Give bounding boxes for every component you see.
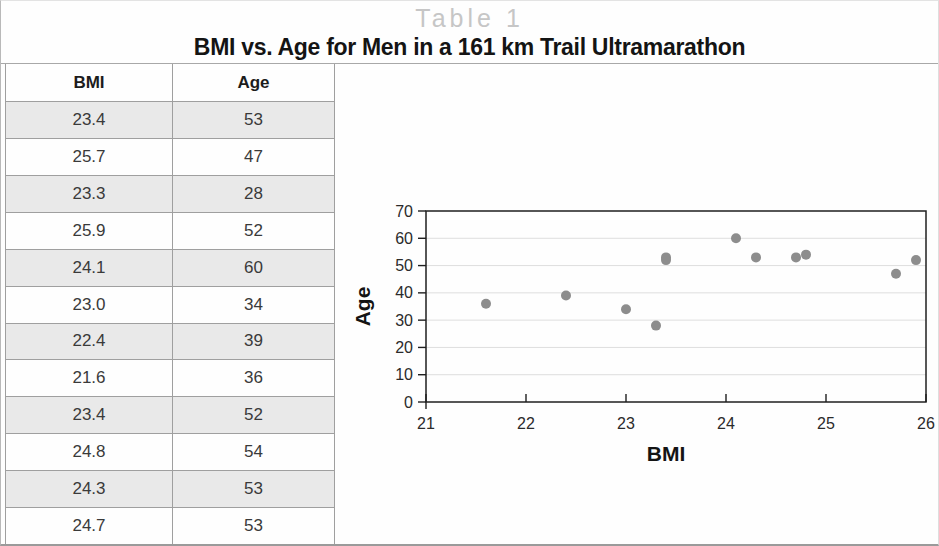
data-point bbox=[801, 250, 811, 260]
y-tick-label: 40 bbox=[395, 284, 413, 301]
data-table: BMI Age 23.45325.74723.32825.95224.16023… bbox=[5, 64, 335, 544]
table-cell: 23.3 bbox=[6, 176, 172, 212]
table-cell: 24.8 bbox=[6, 434, 172, 470]
data-point bbox=[651, 321, 661, 331]
x-tick-label: 25 bbox=[817, 415, 835, 432]
table-number: Table 1 bbox=[1, 5, 938, 33]
table-row: 24.854 bbox=[6, 433, 334, 470]
table-row: 23.034 bbox=[6, 286, 334, 323]
table-cell: 21.6 bbox=[6, 360, 172, 396]
table-row: 23.452 bbox=[6, 396, 334, 433]
x-axis-title: BMI bbox=[647, 442, 686, 465]
table-row: 25.952 bbox=[6, 212, 334, 249]
table-cell: 24.1 bbox=[6, 250, 172, 286]
plot-frame bbox=[426, 211, 926, 402]
x-tick-label: 22 bbox=[517, 415, 535, 432]
table-header-row: BMI Age bbox=[6, 64, 334, 101]
data-point bbox=[751, 252, 761, 262]
data-point bbox=[661, 255, 671, 265]
y-tick-label: 10 bbox=[395, 366, 413, 383]
figure: Table 1 BMI vs. Age for Men in a 161 km … bbox=[0, 0, 939, 546]
figure-title: BMI vs. Age for Men in a 161 km Trail Ul… bbox=[1, 35, 938, 60]
data-point bbox=[621, 304, 631, 314]
table-body: 23.45325.74723.32825.95224.16023.03422.4… bbox=[6, 101, 334, 544]
table-cell: 54 bbox=[172, 434, 334, 470]
data-point bbox=[911, 255, 921, 265]
data-point bbox=[731, 233, 741, 243]
data-point bbox=[891, 269, 901, 279]
scatter-plot: 010203040506070212223242526AgeBMI bbox=[341, 193, 939, 493]
table-cell: 23.4 bbox=[6, 102, 172, 138]
column-header-age: Age bbox=[172, 64, 334, 101]
x-tick-label: 23 bbox=[617, 415, 635, 432]
table-cell: 60 bbox=[172, 250, 334, 286]
y-tick-label: 60 bbox=[395, 230, 413, 247]
table-cell: 53 bbox=[172, 102, 334, 138]
data-point bbox=[481, 299, 491, 309]
table-row: 21.636 bbox=[6, 359, 334, 396]
table-cell: 47 bbox=[172, 139, 334, 175]
x-tick-label: 21 bbox=[417, 415, 435, 432]
table-cell: 23.4 bbox=[6, 397, 172, 433]
table-cell: 25.9 bbox=[6, 213, 172, 249]
table-cell: 52 bbox=[172, 397, 334, 433]
y-tick-label: 0 bbox=[404, 394, 413, 411]
table-cell: 24.3 bbox=[6, 471, 172, 507]
column-header-bmi: BMI bbox=[6, 64, 172, 101]
table-cell: 53 bbox=[172, 471, 334, 507]
table-cell: 39 bbox=[172, 324, 334, 360]
table-row: 24.160 bbox=[6, 249, 334, 286]
data-point bbox=[791, 252, 801, 262]
y-tick-label: 70 bbox=[395, 203, 413, 220]
y-tick-label: 50 bbox=[395, 257, 413, 274]
table-row: 24.353 bbox=[6, 470, 334, 507]
data-point bbox=[561, 291, 571, 301]
table-row: 22.439 bbox=[6, 323, 334, 360]
y-tick-label: 30 bbox=[395, 312, 413, 329]
table-row: 23.453 bbox=[6, 101, 334, 138]
table-cell: 24.7 bbox=[6, 508, 172, 544]
table-cell: 28 bbox=[172, 176, 334, 212]
table-cell: 36 bbox=[172, 360, 334, 396]
table-row: 24.753 bbox=[6, 507, 334, 544]
chart-area: 010203040506070212223242526AgeBMI bbox=[341, 193, 939, 493]
x-tick-label: 24 bbox=[717, 415, 735, 432]
table-cell: 23.0 bbox=[6, 287, 172, 323]
table-cell: 25.7 bbox=[6, 139, 172, 175]
table-cell: 52 bbox=[172, 213, 334, 249]
y-tick-label: 20 bbox=[395, 339, 413, 356]
table-cell: 53 bbox=[172, 508, 334, 544]
table-cell: 22.4 bbox=[6, 324, 172, 360]
figure-header: Table 1 BMI vs. Age for Men in a 161 km … bbox=[1, 1, 938, 64]
y-axis-title: Age bbox=[351, 287, 374, 327]
x-tick-label: 26 bbox=[917, 415, 935, 432]
table-row: 25.747 bbox=[6, 138, 334, 175]
table-cell: 34 bbox=[172, 287, 334, 323]
table-row: 23.328 bbox=[6, 175, 334, 212]
